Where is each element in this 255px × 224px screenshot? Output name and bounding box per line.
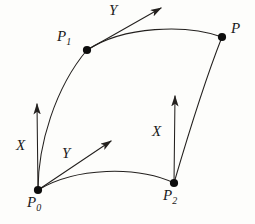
point-label-p2: P2 — [163, 188, 177, 206]
point-dot-p1 — [83, 46, 91, 54]
geometry-figure: P0 P1 P2 P X Y X Y — [0, 0, 255, 224]
point-label-p1: P1 — [57, 29, 71, 47]
point-label-p0: P0 — [27, 195, 41, 213]
figure-canvas — [0, 0, 255, 224]
curve-p2-p — [174, 37, 222, 183]
curve-p0-p1 — [38, 50, 87, 190]
vector-y-at-p0 — [38, 141, 111, 190]
vector-label-y-at-p0: Y — [62, 146, 70, 161]
curve-p0-p2 — [38, 171, 174, 190]
curve-p1-p — [87, 29, 222, 50]
point-label-p0-base: P — [27, 194, 36, 210]
vector-y-at-p1 — [87, 8, 161, 50]
point-label-p1-base: P — [57, 28, 66, 44]
vector-x-at-p2 — [174, 96, 175, 183]
point-label-p1-subscript: 1 — [66, 36, 71, 47]
vector-label-x-at-p0: X — [16, 138, 25, 153]
point-label-p0-subscript: 0 — [36, 202, 41, 213]
point-dot-p0 — [34, 186, 42, 194]
point-label-p2-base: P — [163, 187, 172, 203]
point-label-p-base: P — [231, 20, 240, 36]
point-label-p2-subscript: 2 — [172, 195, 177, 206]
point-label-p: P — [231, 21, 240, 39]
curve-group — [38, 29, 222, 190]
vector-x-at-p0 — [37, 104, 38, 190]
point-dot-p2 — [170, 179, 178, 187]
vector-label-y-at-p1: Y — [109, 3, 117, 18]
point-dot-p — [218, 33, 226, 41]
vector-label-x-at-p2: X — [152, 124, 161, 139]
node-dot-group — [34, 33, 226, 194]
